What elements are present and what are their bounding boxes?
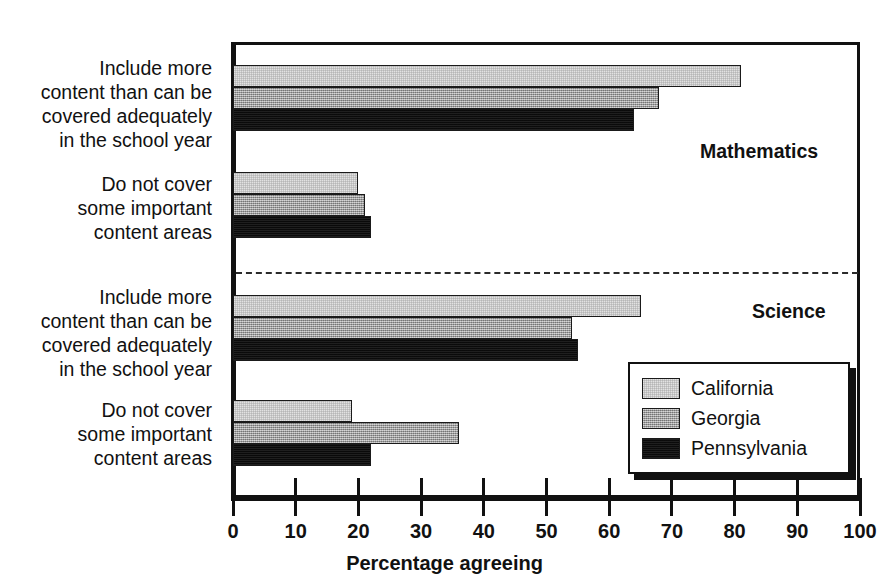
x-tick-50 <box>545 500 548 516</box>
x-tick-70 <box>670 500 673 516</box>
x-tick-inner-30 <box>420 478 423 497</box>
legend-item-pennsylvania[interactable]: Pennsylvania <box>642 433 838 463</box>
x-tick-label-20: 20 <box>347 520 369 543</box>
x-tick-80 <box>733 500 736 516</box>
x-tick-inner-90 <box>796 478 799 497</box>
legend-swatch-pennsylvania-icon <box>642 438 680 459</box>
x-tick-label-100: 100 <box>843 520 876 543</box>
bar-science-donot-pennsylvania <box>233 444 371 466</box>
panel-divider-dashed <box>236 272 858 274</box>
x-tick-label-40: 40 <box>473 520 495 543</box>
x-tick-100 <box>859 500 862 516</box>
bar-science-donot-georgia <box>233 422 459 444</box>
x-tick-20 <box>357 500 360 516</box>
bar-math-donot-california <box>233 172 358 194</box>
x-tick-label-80: 80 <box>723 520 745 543</box>
x-tick-90 <box>796 500 799 516</box>
x-tick-inner-60 <box>608 478 611 497</box>
x-tick-label-60: 60 <box>598 520 620 543</box>
x-tick-inner-100 <box>859 478 862 497</box>
x-axis-title: Percentage agreeing <box>0 552 889 575</box>
bar-math-donot-pennsylvania <box>233 216 371 238</box>
x-tick-inner-10 <box>294 478 297 497</box>
bar-science-include-california <box>233 295 641 317</box>
x-tick-inner-20 <box>357 478 360 497</box>
category-label-math-include: Include more content than can be covered… <box>0 56 222 152</box>
legend-swatch-georgia-icon <box>642 408 680 429</box>
x-tick-0 <box>232 500 235 516</box>
legend-label-pennsylvania: Pennsylvania <box>691 438 807 459</box>
category-label-science-include: Include more content than can be covered… <box>0 285 222 381</box>
category-label-math-donot: Do not cover some important content area… <box>0 172 222 244</box>
x-tick-inner-0 <box>232 478 235 497</box>
x-tick-label-0: 0 <box>227 520 238 543</box>
bar-math-include-california <box>233 65 741 87</box>
x-tick-label-10: 10 <box>285 520 307 543</box>
bar-math-include-georgia <box>233 87 659 109</box>
bar-science-include-pennsylvania <box>233 339 578 361</box>
legend-item-georgia[interactable]: Georgia <box>642 403 838 433</box>
legend: California Georgia Pennsylvania <box>628 362 850 474</box>
x-tick-inner-40 <box>482 478 485 497</box>
legend-item-california[interactable]: California <box>642 373 838 403</box>
x-tick-10 <box>294 500 297 516</box>
bar-math-include-pennsylvania <box>233 109 634 131</box>
x-tick-inner-50 <box>545 478 548 497</box>
category-label-science-donot: Do not cover some important content area… <box>0 398 222 470</box>
bar-math-donot-georgia <box>233 194 365 216</box>
panel-label-mathematics: Mathematics <box>700 140 818 163</box>
x-tick-label-30: 30 <box>410 520 432 543</box>
x-tick-label-90: 90 <box>786 520 808 543</box>
x-tick-30 <box>420 500 423 516</box>
chart-figure: Include more content than can be covered… <box>0 0 889 588</box>
x-tick-60 <box>608 500 611 516</box>
x-tick-inner-70 <box>670 478 673 497</box>
bar-science-include-georgia <box>233 317 572 339</box>
x-tick-40 <box>482 500 485 516</box>
legend-label-georgia: Georgia <box>691 408 760 429</box>
bar-science-donot-california <box>233 400 352 422</box>
x-tick-inner-80 <box>733 478 736 497</box>
legend-swatch-california-icon <box>642 378 680 399</box>
x-tick-label-50: 50 <box>535 520 557 543</box>
legend-label-california: California <box>691 378 773 399</box>
panel-label-science: Science <box>752 300 826 323</box>
x-tick-label-70: 70 <box>661 520 683 543</box>
